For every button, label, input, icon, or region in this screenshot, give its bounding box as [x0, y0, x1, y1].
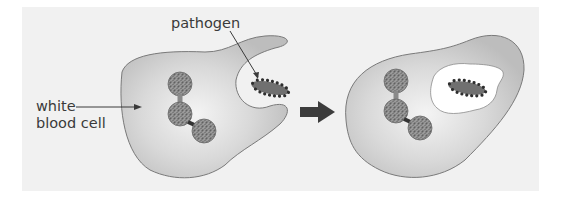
process-arrow-icon — [300, 101, 335, 123]
pathogen-label: pathogen — [171, 15, 240, 32]
wbc-label-line2: blood cell — [36, 115, 106, 132]
pathogen-label-text: pathogen — [171, 15, 240, 31]
pathogen-left — [249, 76, 292, 101]
white-blood-cell-label: white blood cell — [36, 98, 106, 132]
white-blood-cell-engulfing — [121, 36, 292, 178]
wbc-label-line1: white — [36, 98, 106, 115]
white-blood-cell-engulfed — [346, 35, 524, 177]
pathogen-pointer-arrowhead — [253, 72, 259, 79]
